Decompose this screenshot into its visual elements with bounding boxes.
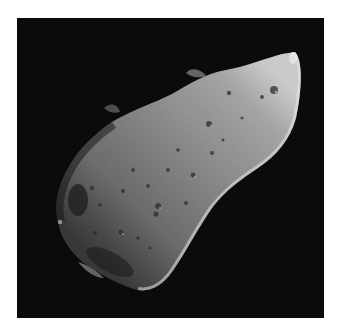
asteroid-photo — [0, 0, 340, 334]
asteroid-body — [56, 52, 300, 290]
